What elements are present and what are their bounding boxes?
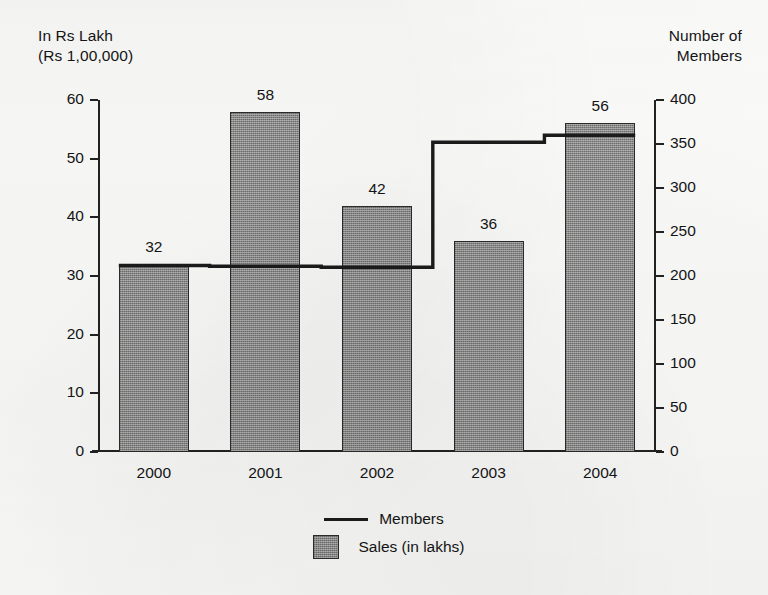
left-axis-line (98, 100, 100, 452)
right-tick-mark (656, 275, 664, 277)
legend-label-members: Members (379, 510, 444, 528)
right-tick-label: 250 (670, 222, 696, 240)
line-swatch-icon (324, 518, 368, 521)
right-tick-label: 0 (670, 442, 679, 460)
bar (565, 123, 635, 452)
left-tick-mark (90, 334, 98, 336)
left-tick-label: 0 (75, 442, 84, 460)
left-tick-mark (90, 275, 98, 277)
right-tick-label: 300 (670, 178, 696, 196)
right-tick-mark (656, 363, 664, 365)
legend-entry-sales: Sales (in lakhs) (304, 535, 465, 559)
bar (230, 112, 300, 452)
left-tick-label: 50 (67, 149, 84, 167)
x-axis-label: 2004 (583, 464, 617, 482)
right-tick-label: 150 (670, 310, 696, 328)
left-axis-title: In Rs Lakh (Rs 1,00,000) (38, 26, 133, 66)
chart-page: In Rs Lakh (Rs 1,00,000) Number of Membe… (0, 0, 768, 595)
bar (119, 264, 189, 452)
left-tick-label: 10 (67, 383, 84, 401)
left-tick-label: 30 (67, 266, 84, 284)
right-tick-label: 400 (670, 90, 696, 108)
right-tick-mark (656, 143, 664, 145)
legend-label-sales: Sales (in lakhs) (359, 538, 465, 556)
left-tick-mark (90, 216, 98, 218)
right-tick-mark (656, 99, 664, 101)
x-axis-label: 2003 (471, 464, 505, 482)
x-axis-label: 2001 (248, 464, 282, 482)
bar-value-label: 56 (592, 97, 609, 115)
right-tick-mark (656, 231, 664, 233)
right-tick-mark (656, 407, 664, 409)
left-tick-mark (90, 392, 98, 394)
right-tick-mark (656, 319, 664, 321)
left-tick-mark (90, 158, 98, 160)
left-tick-label: 60 (67, 90, 84, 108)
legend-entry-members: Members (324, 510, 444, 528)
legend-square-cell (304, 535, 348, 559)
right-tick-label: 100 (670, 354, 696, 372)
right-tick-mark (656, 187, 664, 189)
x-axis-label: 2000 (137, 464, 171, 482)
x-axis-label: 2002 (360, 464, 394, 482)
bar-value-label: 32 (145, 238, 162, 256)
bar-swatch-icon (313, 535, 339, 559)
right-tick-mark (656, 451, 664, 453)
legend-line-cell (324, 518, 368, 521)
right-tick-label: 350 (670, 134, 696, 152)
right-tick-label: 200 (670, 266, 696, 284)
bar-value-label: 58 (257, 86, 274, 104)
left-tick-label: 40 (67, 207, 84, 225)
left-tick-label: 20 (67, 325, 84, 343)
right-tick-label: 50 (670, 398, 687, 416)
chart-legend: Members Sales (in lakhs) (0, 510, 768, 559)
bar (342, 206, 412, 452)
right-axis-title: Number of Members (669, 26, 742, 66)
plot-area: 0102030405060 050100150200250300350400 2… (98, 100, 656, 452)
bar-value-label: 36 (480, 215, 497, 233)
bar-value-label: 42 (368, 180, 385, 198)
bar (454, 241, 524, 452)
left-tick-mark (90, 451, 98, 453)
left-tick-mark (90, 99, 98, 101)
